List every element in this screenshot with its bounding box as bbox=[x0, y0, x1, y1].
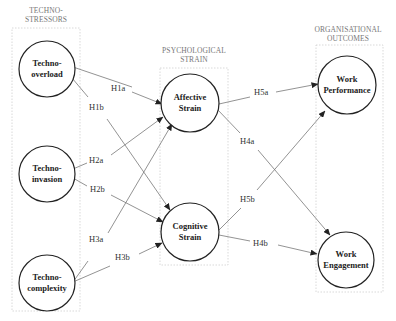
edge-label-h2a: H2a bbox=[89, 155, 103, 165]
edge-h5b bbox=[219, 208, 241, 230]
edge-label-h1a: H1a bbox=[111, 83, 125, 93]
edge-label-h4b: H4b bbox=[253, 238, 268, 248]
edge-label-h5a: H5a bbox=[254, 87, 268, 97]
work-engagement-label: Work Engagement bbox=[312, 249, 380, 271]
edge-h5b-tail bbox=[257, 111, 325, 190]
stressors-group-label: TECHNO- STRESSORS bbox=[6, 6, 86, 24]
edge-h5a-tail bbox=[276, 84, 318, 92]
edge-h3a-tail bbox=[108, 124, 172, 233]
edge-label-h2b: H2b bbox=[90, 184, 105, 194]
edge-label-h5b: H5b bbox=[240, 194, 255, 204]
edge-label-h4a: H4a bbox=[240, 136, 254, 146]
edge-label-h3b: H3b bbox=[115, 252, 130, 262]
techno-overload-label: Techno- overload bbox=[17, 58, 77, 80]
edge-h4a-tail bbox=[258, 150, 330, 235]
edge-h4b bbox=[219, 235, 250, 241]
edge-label-h1b: H1b bbox=[89, 102, 104, 112]
techno-complexity-label: Techno- complexity bbox=[15, 272, 79, 294]
outcomes-group-label: ORGANISATIONAL OUTCOMES bbox=[300, 25, 396, 43]
edge-h3b-tail bbox=[139, 243, 162, 254]
edge-h5a bbox=[219, 97, 250, 104]
edge-h2b-tail bbox=[111, 195, 163, 222]
edge-h1b-tail bbox=[107, 119, 170, 210]
cognitive-strain-label: Cognitive Strain bbox=[158, 221, 222, 243]
techno-invasion-label: Techno- invasion bbox=[17, 163, 77, 185]
affective-strain-label: Affective Strain bbox=[158, 92, 222, 114]
edge-label-h3a: H3a bbox=[89, 234, 103, 244]
work-performance-label: Work Performance bbox=[313, 74, 381, 96]
strain-group-label: PSYCHOLOGICAL STRAIN bbox=[144, 46, 244, 64]
